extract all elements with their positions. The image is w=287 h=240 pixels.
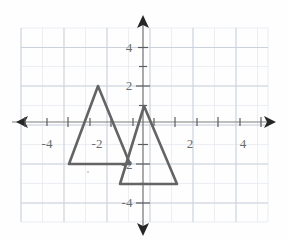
grid-major — [21, 28, 268, 222]
x-tick-label-pos4: 4 — [240, 136, 247, 151]
x-tick-label-neg4: -4 — [42, 136, 53, 151]
y-tick-label-pos4: 4 — [126, 40, 133, 55]
graph-figure: -4 -2 2 4 4 2 -2 -4 — [0, 0, 287, 240]
y-tick-label-neg4: -4 — [122, 195, 133, 210]
coordinate-plane-svg: -4 -2 2 4 4 2 -2 -4 — [0, 0, 287, 240]
x-tick-label-pos2: 2 — [187, 136, 194, 151]
x-tick-label-neg2: -2 — [92, 136, 103, 151]
y-tick-label-pos2: 2 — [126, 78, 133, 93]
